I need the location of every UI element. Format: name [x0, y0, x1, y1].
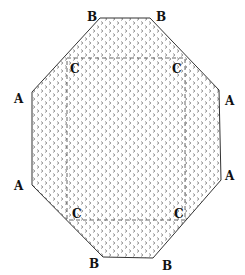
- diagram-canvas: BBAAAACCCCBB: [0, 0, 245, 275]
- label-B-top-right: B: [156, 10, 166, 24]
- label-C-upper-right: C: [172, 62, 182, 76]
- outer-octagon: [32, 18, 221, 258]
- label-C-upper-left: C: [70, 62, 80, 76]
- label-B-top-left: B: [87, 10, 97, 24]
- label-A-lower-right: A: [224, 169, 235, 183]
- label-A-upper-right: A: [224, 94, 235, 108]
- label-C-lower-left: C: [72, 207, 82, 221]
- label-B-bottom-left: B: [89, 257, 99, 271]
- label-B-bottom-right: B: [162, 259, 172, 273]
- label-A-lower-left: A: [13, 179, 24, 193]
- label-C-lower-right: C: [174, 207, 184, 221]
- label-A-upper-left: A: [13, 92, 24, 106]
- octagon-diagram: BBAAAACCCCBB: [0, 0, 245, 275]
